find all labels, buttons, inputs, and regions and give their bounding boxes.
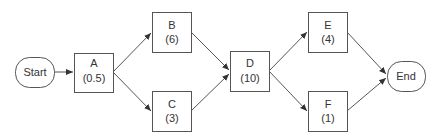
edge-b-d: [191, 32, 229, 70]
edge-d-e: [269, 32, 307, 71]
node-end-label: End: [396, 70, 416, 82]
node-d: D (10): [231, 52, 270, 92]
edge-d-f: [269, 71, 307, 111]
node-a-label: A: [90, 57, 98, 69]
edge-a-b: [113, 33, 151, 72]
node-b-label: B: [168, 19, 175, 31]
edge-f-end: [347, 78, 386, 111]
node-d-label: D: [246, 57, 254, 69]
node-e: E (4): [309, 13, 348, 53]
edge-c-d: [191, 74, 229, 111]
node-b: B (6): [153, 13, 192, 53]
node-c-label: C: [168, 98, 176, 110]
node-e-duration: (4): [321, 33, 334, 45]
node-a-duration: (0.5): [83, 72, 106, 84]
node-start-label: Start: [23, 66, 46, 78]
node-a: A (0.5): [75, 54, 114, 93]
network-diagram: Start A (0.5) B (6) C (3) D (10) E (4) F…: [0, 0, 439, 140]
node-end: End: [388, 62, 426, 92]
node-f: F (1): [309, 92, 348, 132]
node-d-duration: (10): [240, 72, 260, 84]
node-f-label: F: [325, 98, 332, 110]
node-c-duration: (3): [165, 112, 178, 124]
node-start: Start: [16, 58, 55, 88]
node-e-label: E: [324, 19, 331, 31]
node-c: C (3): [153, 92, 192, 132]
edge-a-c: [113, 72, 151, 111]
edge-e-end: [347, 32, 386, 74]
node-f-duration: (1): [321, 112, 334, 124]
node-b-duration: (6): [165, 33, 178, 45]
